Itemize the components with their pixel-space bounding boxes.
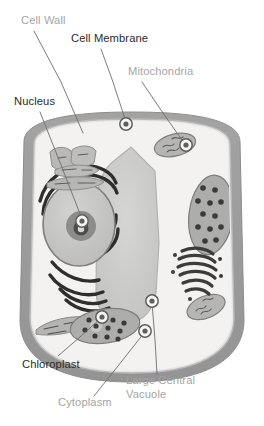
marker-mitochondria[interactable] (180, 139, 192, 151)
label-nucleus: Nucleus (14, 95, 55, 107)
plant-cell-illustration: Cell WallCell MembraneMitochondriaNucleu… (0, 0, 264, 426)
smooth-endoplasmic-reticulum (47, 146, 104, 190)
marker-large-central-vacuole[interactable] (146, 295, 158, 307)
label-large-central-vacuole: Large CentralVacuole (126, 374, 195, 400)
marker-cytoplasm[interactable] (139, 325, 151, 337)
marker-cell-membrane[interactable] (120, 118, 132, 130)
marker-chloroplast[interactable] (96, 311, 108, 323)
label-cytoplasm: Cytoplasm (58, 396, 112, 408)
label-cell-wall: Cell Wall (21, 14, 66, 26)
marker-nucleus[interactable] (76, 215, 88, 227)
leader-line-cell-membrane (101, 49, 126, 122)
label-cell-membrane: Cell Membrane (71, 32, 148, 44)
label-chloroplast: Chloroplast (22, 358, 80, 370)
label-mitochondria: Mitochondria (128, 65, 194, 77)
plant-cell-diagram-canvas: Cell WallCell MembraneMitochondriaNucleu… (0, 0, 264, 426)
